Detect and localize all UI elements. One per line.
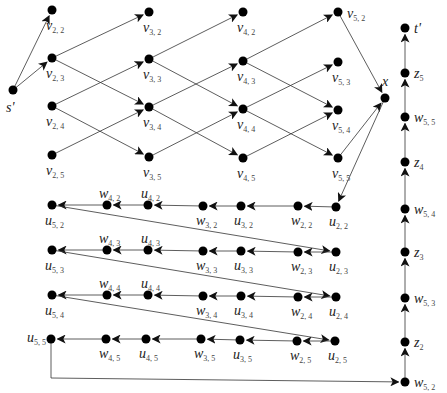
node-label: t' (414, 21, 422, 36)
node-label: w5, 4 (414, 202, 435, 219)
node-label: z5 (413, 66, 423, 83)
edge-arrow (243, 113, 332, 158)
node-label: v4, 2 (237, 20, 255, 37)
node-label: w2, 5 (290, 348, 311, 365)
graph-node (239, 105, 248, 114)
node-label: w4, 3 (99, 231, 120, 248)
node-label: u2, 5 (328, 348, 347, 365)
node-label: v2, 2 (46, 18, 64, 35)
graph-node (294, 202, 303, 211)
edge-arrow (52, 15, 143, 58)
node-label: u2, 2 (329, 214, 348, 231)
edge-arrow (52, 62, 143, 106)
node-label: z2 (413, 335, 423, 352)
edge-arrow (339, 98, 385, 201)
node-label: v3, 3 (143, 67, 161, 84)
edge-arrow (247, 251, 298, 252)
node-label: v4, 5 (237, 166, 255, 183)
graph-node (381, 94, 390, 103)
edge-arrow (154, 295, 203, 296)
graph-node (331, 337, 340, 346)
node-label: v5, 2 (347, 6, 365, 23)
graph-node (401, 294, 410, 303)
graph-node (293, 337, 302, 346)
graph-node (47, 335, 56, 344)
graph-node (199, 247, 208, 256)
node-label: w4, 4 (99, 276, 120, 293)
edge-arrow (207, 339, 240, 340)
node-label: u5, 3 (45, 258, 64, 275)
label-layer: s'v2, 2v2, 3v2, 4v2, 5v3, 2v3, 3v3, 4v3,… (6, 6, 435, 392)
edge-arrow (52, 205, 330, 251)
node-label: w5, 3 (414, 291, 435, 308)
node-label: u3, 2 (234, 213, 253, 230)
edge-arrow (243, 109, 332, 155)
node-label: v5, 5 (332, 166, 350, 183)
edge-arrow (304, 206, 336, 207)
edge-layer (13, 12, 405, 382)
edge-arrow (149, 107, 237, 155)
graph-diagram: s'v2, 2v2, 3v2, 4v2, 5v3, 2v3, 3v3, 4v3,… (0, 0, 447, 393)
graph-node (48, 54, 57, 63)
node-label: u5, 5 (27, 330, 46, 347)
graph-node (199, 202, 208, 211)
edge-arrow (154, 205, 203, 206)
node-label: w4, 2 (99, 186, 120, 203)
graph-node (334, 8, 343, 17)
edge-arrow (52, 110, 143, 155)
node-label: v4, 3 (237, 69, 255, 86)
graph-node (102, 335, 111, 344)
graph-node (48, 102, 57, 111)
edge-arrow (243, 61, 332, 107)
node-label: w2, 4 (291, 304, 312, 321)
node-label: u2, 3 (329, 259, 348, 276)
node-label: v3, 4 (143, 115, 161, 132)
node-label: u5, 2 (45, 213, 64, 230)
node-label: x (381, 74, 389, 89)
node-label: w3, 2 (196, 213, 217, 230)
edge-arrow (246, 340, 297, 341)
graph-node (239, 57, 248, 66)
edge-arrow (243, 15, 332, 61)
graph-node (142, 335, 151, 344)
node-label: z3 (413, 245, 423, 262)
graph-node (145, 153, 154, 162)
graph-node (145, 8, 154, 17)
graph-node (401, 113, 410, 122)
graph-node (145, 55, 154, 64)
node-label: v5, 4 (332, 118, 350, 135)
edge-arrow (243, 65, 332, 109)
graph-node (197, 335, 206, 344)
node-label: v2, 5 (46, 163, 64, 180)
node-label: v2, 3 (46, 66, 64, 83)
graph-node (145, 103, 154, 112)
edge-arrow (52, 250, 330, 296)
node-label: w3, 5 (194, 346, 215, 363)
node-label: z4 (413, 155, 423, 172)
edge-arrow (52, 295, 329, 340)
node-label: v4, 4 (237, 117, 255, 134)
node-label: w2, 3 (291, 259, 312, 276)
node-label: w5, 5 (414, 110, 435, 127)
graph-node (401, 24, 410, 33)
node-label: u4, 4 (141, 276, 160, 293)
graph-node (239, 154, 248, 163)
node-label: u3, 5 (233, 347, 252, 364)
graph-node (239, 8, 248, 17)
node-label: w3, 3 (196, 258, 217, 275)
graph-node (48, 246, 57, 255)
graph-node (294, 248, 303, 257)
edge-arrow (149, 64, 237, 107)
node-label: w2, 2 (291, 213, 312, 230)
node-label: w5, 2 (414, 375, 435, 392)
graph-node (401, 69, 410, 78)
graph-node (334, 106, 343, 115)
graph-node (9, 86, 18, 95)
node-label: v5, 3 (332, 70, 350, 87)
graph-node (237, 292, 246, 301)
node-label: s' (6, 100, 15, 115)
graph-node (332, 293, 341, 302)
graph-node (237, 202, 246, 211)
graph-node (334, 154, 343, 163)
edge-arrow (149, 15, 237, 59)
